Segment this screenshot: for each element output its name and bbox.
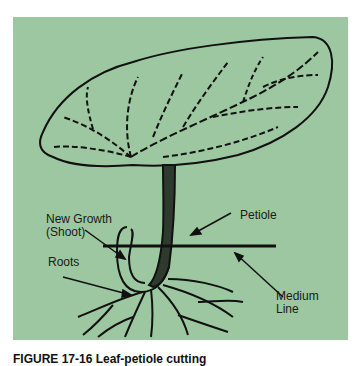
label-roots: Roots	[48, 256, 79, 269]
petiole-icon	[117, 165, 175, 292]
figure-caption: FIGURE 17-16 Leaf-petiole cutting	[13, 352, 206, 366]
diagram-panel: New Growth (Shoot) Petiole Roots Medium …	[13, 17, 348, 340]
label-new-growth: New Growth (Shoot)	[46, 213, 112, 239]
leaf-icon	[40, 37, 332, 166]
label-medium-line: Medium Line	[276, 290, 319, 316]
label-petiole: Petiole	[240, 209, 277, 222]
